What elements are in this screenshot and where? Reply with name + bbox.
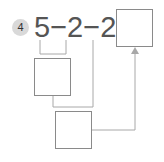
step1-box[interactable] bbox=[34, 58, 71, 96]
step2-box[interactable] bbox=[55, 111, 92, 149]
answer-box[interactable] bbox=[116, 9, 153, 47]
problem-number-badge: 4 bbox=[12, 19, 29, 36]
arrow-up-icon bbox=[131, 47, 139, 54]
